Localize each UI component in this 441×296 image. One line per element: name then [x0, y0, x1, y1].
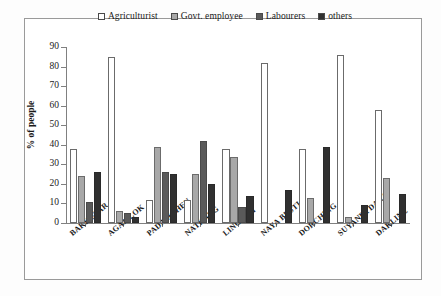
- bar-dakline-others: [399, 194, 406, 223]
- bar-bakhutar-agriculturist: [70, 149, 77, 223]
- y-axis-tick-label: 70: [35, 80, 59, 90]
- bar-agamlok-labourers: [124, 213, 131, 223]
- bar-nathang-others: [208, 184, 215, 223]
- y-axis-tick-label: 20: [35, 178, 59, 188]
- bar-dorching-others: [323, 147, 330, 223]
- bar-suyaneydara-agriculturist: [337, 55, 344, 223]
- bar-dakline-agriculturist: [375, 110, 382, 223]
- bar-naya-busti-others: [285, 190, 292, 223]
- bar-agamlok-others: [132, 217, 139, 223]
- y-axis-tick: [61, 223, 66, 224]
- bar-nathang-labourers: [200, 141, 207, 223]
- bar-padamchen-govt-employee: [154, 147, 161, 223]
- chart-figure: Agriculturist Govt. employee Labourers o…: [0, 0, 441, 296]
- y-axis-tick-label: 90: [35, 41, 59, 51]
- bar-lingtam-labourers: [238, 207, 245, 223]
- y-axis-tick-label: 40: [35, 139, 59, 149]
- bar-padamchen-labourers: [162, 172, 169, 223]
- y-axis-tick-label: 60: [35, 100, 59, 110]
- y-axis-tick-label: 0: [35, 217, 59, 227]
- bar-nathang-agriculturist: [184, 200, 191, 223]
- bar-dorching-agriculturist: [299, 149, 306, 223]
- bar-bakhutar-labourers: [86, 202, 93, 224]
- y-axis-tick-label: 50: [35, 119, 59, 129]
- bar-lingtam-agriculturist: [222, 149, 229, 223]
- bar-bakhutar-govt-employee: [78, 176, 85, 223]
- bar-bakhutar-others: [94, 172, 101, 223]
- bar-suyaneydara-govt-employee: [345, 217, 352, 223]
- bar-lingtam-govt-employee: [230, 157, 237, 223]
- y-axis-tick-label: 10: [35, 197, 59, 207]
- bar-dorching-govt-employee: [307, 198, 314, 223]
- bar-lingtam-others: [246, 196, 253, 223]
- bar-dakline-govt-employee: [383, 178, 390, 223]
- bar-suyaneydara-others: [361, 205, 368, 223]
- bar-agamlok-govt-employee: [116, 211, 123, 223]
- bar-nathang-govt-employee: [192, 174, 199, 223]
- bar-naya-busti-agriculturist: [261, 63, 268, 223]
- bars-layer: [66, 47, 410, 223]
- bar-agamlok-agriculturist: [108, 57, 115, 223]
- y-axis-tick-label: 30: [35, 158, 59, 168]
- y-axis-tick-label: 80: [35, 61, 59, 71]
- bar-padamchen-agriculturist: [146, 200, 153, 223]
- bar-padamchen-others: [170, 174, 177, 223]
